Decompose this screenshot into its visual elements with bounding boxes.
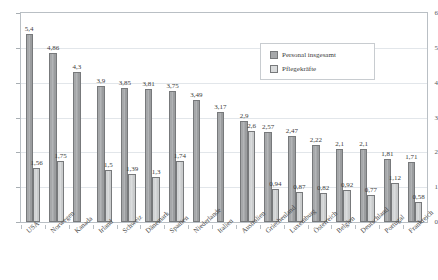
bar-value-label: 3,85 <box>115 79 134 87</box>
bar-total <box>121 88 128 222</box>
bar-group: 4,861,75 <box>45 13 69 222</box>
legend-item-nurses: Pflegekräfte <box>270 62 374 76</box>
bar-value-label: 3,9 <box>91 77 110 85</box>
bar-chart: 0123456 5,41,564,861,754,33,91,53,851,39… <box>0 0 438 280</box>
bar-value-label: 1,75 <box>51 152 70 160</box>
bar-total <box>73 72 80 222</box>
legend-item-total: Personal insgesamt <box>270 48 374 62</box>
x-axis-tick-mark <box>93 225 94 229</box>
bar-value-label: 2,57 <box>258 123 277 131</box>
bar-value-label: 2,1 <box>330 140 349 148</box>
bar-group: 1,710,58 <box>403 13 427 222</box>
bar-value-label: 1,5 <box>99 161 118 169</box>
bar-total <box>97 86 104 222</box>
x-axis-tick-mark <box>117 225 118 229</box>
bar-nurses <box>176 161 183 222</box>
bar-value-label: 3,75 <box>163 82 182 90</box>
bar-group: 1,811,12 <box>379 13 403 222</box>
bar-group: 2,92,6 <box>236 13 260 222</box>
bar-value-label: 1,71 <box>402 153 421 161</box>
x-axis-tick-mark <box>355 225 356 229</box>
bar-value-label: 0,58 <box>409 193 428 201</box>
x-axis-tick-mark <box>140 225 141 229</box>
x-axis-labels: USANorwegenKanadaIrlandSchweizDänemarkSp… <box>0 225 438 280</box>
bar-group: 3,91,5 <box>93 13 117 222</box>
bar-value-label: 0,94 <box>266 180 285 188</box>
bar-nurses <box>33 168 40 222</box>
bar-value-label: 0,82 <box>314 184 333 192</box>
legend-label-total: Personal insgesamt <box>282 51 336 59</box>
bar-value-label: 1,81 <box>378 150 397 158</box>
x-axis-tick-mark <box>403 225 404 229</box>
y-axis-tick-mark <box>16 13 20 14</box>
x-axis-tick-mark <box>164 225 165 229</box>
y-axis-tick-mark <box>16 48 20 49</box>
bar-total <box>145 89 152 222</box>
bar-value-label: 3,49 <box>187 91 206 99</box>
x-axis-tick-mark <box>69 225 70 229</box>
legend: Personal insgesamt Pflegekräfte <box>260 43 375 80</box>
bar-value-label: 4,3 <box>67 63 86 71</box>
y-axis-tick-mark <box>16 187 20 188</box>
bar-group: 3,17 <box>212 13 236 222</box>
bar-value-label: 1,74 <box>170 152 189 160</box>
bar-total <box>264 132 271 222</box>
x-axis-tick-mark <box>308 225 309 229</box>
x-axis-tick-mark <box>331 225 332 229</box>
bar-total <box>193 100 200 222</box>
y-axis-tick-mark <box>16 83 20 84</box>
bar-group: 5,41,56 <box>21 13 45 222</box>
y-axis-tick-mark <box>16 152 20 153</box>
bar-value-label: 3,17 <box>211 103 230 111</box>
y-axis-tick-mark <box>16 222 20 223</box>
bar-value-label: 2,47 <box>282 127 301 135</box>
y-axis-tick-mark <box>16 118 20 119</box>
bar-value-label: 1,56 <box>27 159 46 167</box>
bar-total <box>49 53 56 222</box>
x-axis-tick-mark <box>379 225 380 229</box>
bar-group: 4,3 <box>69 13 93 222</box>
bar-value-label: 0,92 <box>337 181 356 189</box>
x-axis-tick-mark <box>284 225 285 229</box>
bar-value-label: 3,81 <box>139 80 158 88</box>
bar-value-label: 0,77 <box>361 186 380 194</box>
bar-value-label: 2,9 <box>234 112 253 120</box>
bar-value-label: 4,86 <box>43 44 62 52</box>
x-axis-tick-mark <box>260 225 261 229</box>
x-axis-tick-mark <box>236 225 237 229</box>
bar-nurses <box>57 161 64 222</box>
bar-value-label: 2,1 <box>354 140 373 148</box>
x-axis-tick-mark <box>212 225 213 229</box>
bar-nurses <box>105 170 112 222</box>
bar-nurses <box>248 131 255 222</box>
bar-group: 3,751,74 <box>164 13 188 222</box>
bar-group: 3,811,3 <box>140 13 164 222</box>
bar-total <box>26 34 33 222</box>
x-axis-tick-mark <box>45 225 46 229</box>
bar-value-label: 1,39 <box>122 165 141 173</box>
x-axis-tick-mark <box>188 225 189 229</box>
bar-group: 3,49 <box>188 13 212 222</box>
bar-total <box>240 121 247 222</box>
bar-value-label: 0,87 <box>290 183 309 191</box>
bar-value-label: 1,12 <box>385 174 404 182</box>
bar-value-label: 5,4 <box>20 25 39 33</box>
legend-swatch-nurses-icon <box>270 65 278 73</box>
bar-value-label: 2,22 <box>306 136 325 144</box>
bar-value-label: 1,3 <box>146 168 165 176</box>
legend-label-nurses: Pflegekräfte <box>282 65 316 73</box>
x-axis-tick-mark <box>21 225 22 229</box>
bar-group: 3,851,39 <box>117 13 141 222</box>
legend-swatch-total-icon <box>270 51 278 59</box>
